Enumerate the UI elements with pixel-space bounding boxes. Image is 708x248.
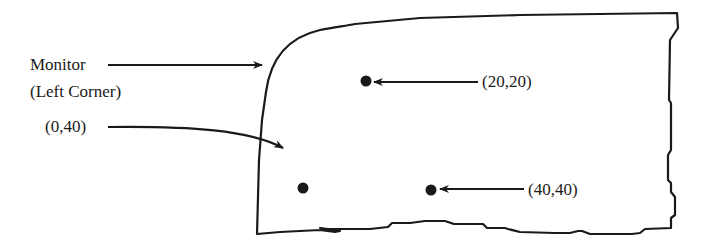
point-b-dot	[298, 183, 309, 194]
left-corner-label: (Left Corner)	[30, 83, 121, 100]
monitor-coordinate-diagram: Monitor (Left Corner) (0,40) (20,20) (40…	[0, 0, 708, 248]
point-a-label: (20,20)	[482, 73, 532, 90]
point-b-label: (0,40)	[45, 118, 86, 135]
monitor-label: Monitor	[30, 56, 86, 73]
point-c-dot	[426, 185, 437, 196]
diagram-canvas	[0, 0, 708, 248]
point-b-arrow	[108, 127, 283, 148]
monitor-outline	[257, 13, 678, 234]
point-c-label: (40,40)	[528, 181, 578, 198]
point-a-dot	[361, 76, 372, 87]
